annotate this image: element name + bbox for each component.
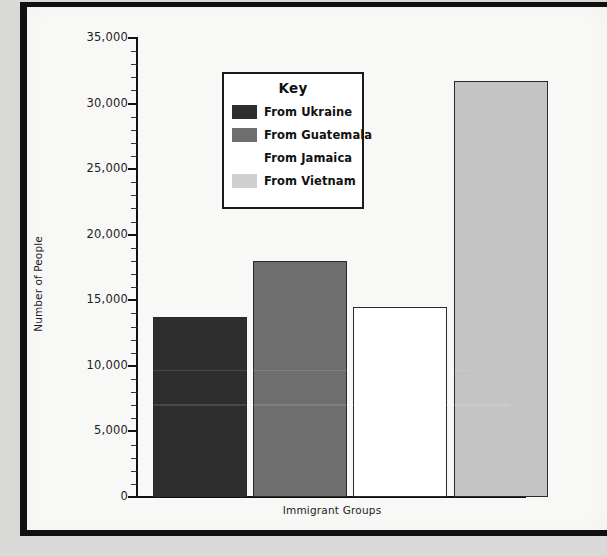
y-axis-tick-mark (128, 299, 137, 301)
y-axis-tick-mark (128, 168, 137, 170)
legend-item-label: From Jamaica (264, 151, 352, 165)
y-axis-minor-tick-mark (131, 248, 137, 249)
y-axis-tick-mark (128, 37, 137, 39)
y-axis-tick-label-text: 35,000 (54, 30, 128, 44)
y-axis-minor-tick-mark (131, 471, 137, 472)
y-axis-minor-tick-mark (131, 182, 137, 183)
legend-item-label: From Ukraine (264, 105, 352, 119)
y-axis-minor-tick-mark (131, 64, 137, 65)
y-axis-minor-tick-mark (131, 143, 137, 144)
y-axis-minor-tick-mark (131, 77, 137, 78)
bar-from-jamaica (353, 307, 447, 497)
y-axis-tick-mark (128, 430, 137, 432)
legend-swatch-icon (232, 174, 257, 188)
legend-item-label: From Vietnam (264, 174, 356, 188)
y-axis-tick-label: 30,000 (48, 96, 128, 110)
y-axis-minor-tick-mark (131, 445, 137, 446)
y-axis-tick-label-text: 15,000 (54, 292, 128, 306)
y-axis-line (136, 37, 138, 498)
y-axis-minor-tick-mark (131, 405, 137, 406)
y-axis-tick-label-text: 0 (54, 489, 128, 503)
y-axis-title: Number of People (32, 219, 44, 349)
legend-key-box: Key From UkraineFrom GuatemalaFrom Jamai… (222, 72, 364, 209)
y-axis-minor-tick-mark (131, 274, 137, 275)
y-axis-minor-tick-mark (131, 208, 137, 209)
legend-title: Key (224, 80, 362, 96)
legend-swatch-icon (232, 151, 257, 165)
y-axis-minor-tick-mark (131, 90, 137, 91)
y-axis-minor-tick-mark (131, 327, 137, 328)
y-axis-tick-mark (128, 365, 137, 367)
y-axis-tick-label: 0 (48, 489, 128, 503)
y-axis-tick-label: 35,000 (48, 30, 128, 44)
y-axis-minor-tick-mark (131, 117, 137, 118)
bar-chart: 35,00030,00025,00020,00015,00010,0005,00… (0, 0, 607, 556)
y-axis-minor-tick-mark (131, 340, 137, 341)
scanned-page: 35,00030,00025,00020,00015,00010,0005,00… (0, 0, 607, 556)
legend-swatch-icon (232, 128, 257, 142)
x-axis-title: Immigrant Groups (137, 504, 527, 516)
y-axis-minor-tick-mark (131, 392, 137, 393)
y-axis-minor-tick-mark (131, 156, 137, 157)
y-axis-minor-tick-mark (131, 458, 137, 459)
y-axis-minor-tick-mark (131, 287, 137, 288)
y-axis-minor-tick-mark (131, 418, 137, 419)
y-axis-tick-label: 5,000 (48, 423, 128, 437)
y-axis-tick-label-text: 30,000 (54, 96, 128, 110)
y-axis-tick-mark (128, 234, 137, 236)
y-axis-tick-label-text: 20,000 (54, 227, 128, 241)
legend-item: From Guatemala (224, 123, 362, 146)
legend-item-label: From Guatemala (264, 128, 372, 142)
y-axis-minor-tick-mark (131, 222, 137, 223)
bar-from-ukraine (153, 317, 247, 497)
y-axis-minor-tick-mark (131, 51, 137, 52)
y-axis-tick-label-text: 5,000 (54, 423, 128, 437)
legend-item: From Ukraine (224, 100, 362, 123)
y-axis-minor-tick-mark (131, 130, 137, 131)
bar-from-vietnam (454, 81, 548, 497)
y-axis-tick-mark (128, 103, 137, 105)
y-axis-minor-tick-mark (131, 313, 137, 314)
y-axis-tick-mark (128, 496, 137, 498)
y-axis-minor-tick-mark (131, 379, 137, 380)
y-axis-tick-label: 25,000 (48, 161, 128, 175)
y-axis-tick-label: 10,000 (48, 358, 128, 372)
legend-items: From UkraineFrom GuatemalaFrom JamaicaFr… (224, 100, 362, 192)
y-axis-minor-tick-mark (131, 195, 137, 196)
legend-swatch-icon (232, 105, 257, 119)
y-axis-tick-label: 15,000 (48, 292, 128, 306)
y-axis-minor-tick-mark (131, 484, 137, 485)
y-axis-minor-tick-mark (131, 353, 137, 354)
y-axis-tick-label-text: 10,000 (54, 358, 128, 372)
bar-from-guatemala (253, 261, 347, 497)
y-axis-minor-tick-mark (131, 261, 137, 262)
legend-item: From Jamaica (224, 146, 362, 169)
y-axis-tick-label-text: 25,000 (54, 161, 128, 175)
y-axis-tick-label: 20,000 (48, 227, 128, 241)
legend-item: From Vietnam (224, 169, 362, 192)
